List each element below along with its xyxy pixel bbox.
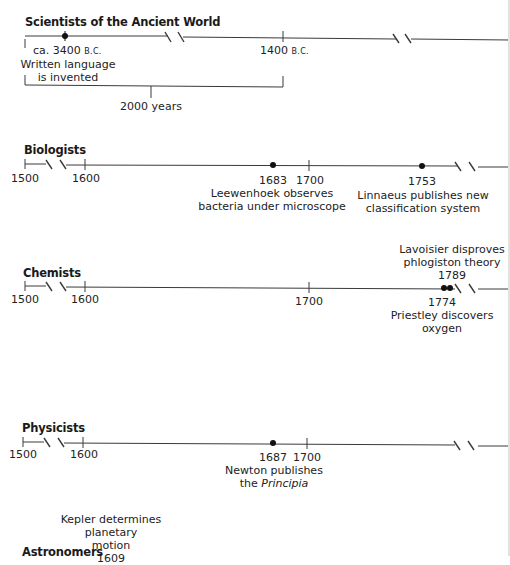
event-label-line: classification system	[357, 202, 488, 215]
tick-label-1500: 1500	[9, 448, 37, 461]
event-label-line: Written language	[20, 58, 115, 71]
tick-label-1600: 1600	[72, 172, 100, 185]
event-dot-1753	[419, 163, 425, 169]
event-dot-1683	[270, 162, 276, 168]
span-label: 2000 years	[120, 100, 182, 113]
tick-label-1600: 1600	[70, 448, 98, 461]
event-label-line: the Principia	[225, 477, 323, 490]
event-dot-1774	[441, 285, 447, 291]
event-year-1687: 1687	[259, 451, 287, 464]
event-label-line: phlogiston theory	[399, 256, 505, 269]
era-label: B.C.	[292, 47, 309, 56]
event-label-line: Priestley discovers	[391, 309, 494, 322]
event-label-leewenhoek: Leewenhoek observes bacteria under micro…	[198, 187, 345, 213]
tick-label-1500: 1500	[11, 172, 39, 185]
event-year-1753: 1753	[408, 175, 436, 188]
label-text: the	[240, 477, 262, 490]
tick-label-1700: 1700	[295, 295, 323, 308]
biologists-timeline-axis	[25, 159, 510, 171]
section-title-ancient: Scientists of the Ancient World	[25, 15, 220, 29]
event-label-line: is invented	[20, 71, 115, 84]
tick-year: 1400	[260, 44, 288, 57]
chemists-timeline-axis	[25, 281, 510, 293]
event-label-line: Newton publishes	[225, 464, 323, 477]
era-label: B.C.	[84, 47, 101, 56]
section-title-physicists: Physicists	[22, 421, 85, 435]
event-dot-1687	[270, 440, 276, 446]
event-label-line: oxygen	[391, 322, 494, 335]
event-label-written-language: Written language is invented	[20, 58, 115, 84]
event-date-value: ca. 3400	[33, 44, 81, 57]
event-label-line: Kepler determines	[61, 513, 162, 526]
event-year-1774: 1774	[391, 296, 494, 309]
event-label-line: Leewenhoek observes	[198, 187, 345, 200]
tick-label-1700: 1700	[293, 451, 321, 464]
section-title-biologists: Biologists	[24, 143, 86, 157]
tick-label-1400bc: 1400 B.C.	[260, 44, 309, 58]
event-date-3400bc: ca. 3400 B.C.	[33, 44, 102, 58]
event-label-line: Linnaeus publishes new	[357, 189, 488, 202]
event-dot-1789	[447, 285, 453, 291]
tick-label-1600: 1600	[71, 293, 99, 306]
event-year-1683: 1683	[259, 174, 287, 187]
event-label-newton: Newton publishes the Principia	[225, 464, 323, 490]
event-label-priestley: 1774 Priestley discovers oxygen	[391, 296, 494, 335]
event-year-1789: 1789	[399, 269, 505, 282]
event-label-line: planetary	[61, 526, 162, 539]
tick-label-1700: 1700	[296, 174, 324, 187]
event-label-lavoisier: Lavoisier disproves phlogiston theory 17…	[399, 243, 505, 282]
section-title-chemists: Chemists	[23, 266, 81, 280]
event-label-line: Lavoisier disproves	[399, 243, 505, 256]
tick-label-1500: 1500	[11, 293, 39, 306]
book-title: Principia	[261, 477, 308, 490]
event-label-line: bacteria under microscope	[198, 200, 345, 213]
event-label-linnaeus: Linnaeus publishes new classification sy…	[357, 189, 488, 215]
section-title-astronomers: Astronomers	[22, 545, 103, 559]
